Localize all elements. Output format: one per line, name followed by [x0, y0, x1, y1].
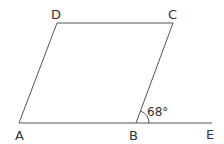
- vertex-label-b: B: [129, 129, 138, 142]
- vertex-label-c: C: [168, 8, 177, 21]
- vertex-label-d: D: [51, 8, 61, 21]
- vertex-label-a: A: [15, 129, 24, 142]
- point-label-e: E: [206, 128, 214, 141]
- angle-label: 68°: [147, 106, 168, 118]
- parallelogram-diagram: [0, 0, 224, 144]
